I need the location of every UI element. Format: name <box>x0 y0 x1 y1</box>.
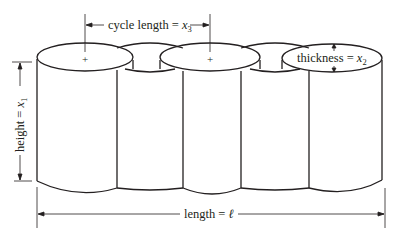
center-mark-1: + <box>82 53 88 65</box>
arrow-down-icon <box>18 174 22 180</box>
cylinder-4-top-front <box>250 69 300 72</box>
arrow-up-icon <box>18 63 22 69</box>
bottom-arc <box>37 181 117 193</box>
cycle-length-label: cycle length = x3 <box>108 18 192 34</box>
height-label: height = x1 <box>13 98 29 152</box>
bottom-arc <box>309 180 382 192</box>
bottom-arc <box>183 188 241 194</box>
arrow-left-icon <box>38 212 44 216</box>
length-label: length = ℓ <box>184 207 234 221</box>
center-mark-3: + <box>207 53 213 65</box>
arrow-right-icon <box>378 212 384 216</box>
arrow-left-icon <box>86 23 92 27</box>
bottom-arc <box>241 188 309 190</box>
arrow-right-icon <box>203 23 209 27</box>
cylinder-diagram: + + cycle length = x3 thickness = x2 hei… <box>0 0 398 235</box>
bottom-arc <box>117 188 183 190</box>
cylinder-2-top-front <box>125 69 175 72</box>
thickness-label: thickness = x2 <box>297 51 367 67</box>
